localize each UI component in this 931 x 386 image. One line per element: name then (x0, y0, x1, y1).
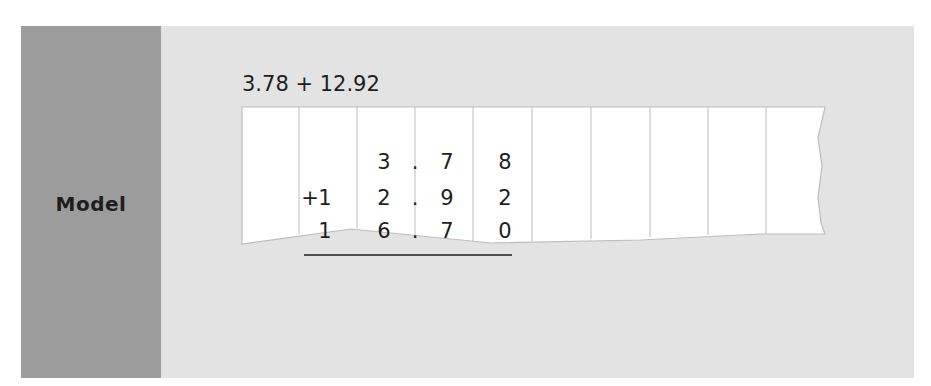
decimal-point: . (405, 150, 425, 174)
digit-cell: 1 (315, 219, 335, 243)
digit-cell: 9 (437, 186, 457, 210)
place-value-paper (21, 26, 914, 378)
digit-cell: 3 (374, 150, 394, 174)
decimal-point: . (405, 186, 425, 210)
decimal-point: . (405, 219, 425, 243)
digit-cell: 2 (374, 186, 394, 210)
digit-cell: 8 (495, 150, 515, 174)
digit-cell: 6 (374, 219, 394, 243)
cropped-heading-fragment (30, 0, 90, 8)
digit-cell: 7 (437, 150, 457, 174)
digit-cell: 1 (315, 186, 335, 210)
digit-cell: 2 (495, 186, 515, 210)
model-panel: Model 3.78 + 12.92 3 . 7 8 + 1 2 . 9 2 1… (21, 26, 914, 378)
digit-cell: 7 (437, 219, 457, 243)
digit-cell: 0 (495, 219, 515, 243)
